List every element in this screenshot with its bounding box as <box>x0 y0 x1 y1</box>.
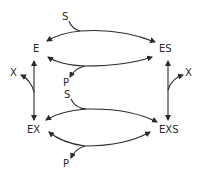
s-entry-curve-bottom <box>71 99 86 109</box>
bottom-reverse-arc <box>49 132 150 158</box>
node-EXS: EXS <box>159 124 179 135</box>
node-E: E <box>33 43 39 54</box>
s-entry-curve-top <box>69 21 80 31</box>
top-reverse-arc <box>48 57 152 77</box>
ligand-X-left: X <box>10 67 17 78</box>
ligand-P-bottom: P <box>63 158 69 169</box>
ligand-P-top: P <box>63 77 69 88</box>
node-ES: ES <box>159 43 172 54</box>
ligand-S-bottom: S <box>64 89 70 100</box>
right-vertical-equilibrium <box>168 61 183 120</box>
ligand-S-top: S <box>62 11 68 22</box>
kinetic-scheme-diagram: E ES EX EXS S P S P X X <box>0 0 201 175</box>
top-forward-arc <box>47 21 155 42</box>
bottom-forward-arc <box>46 99 157 122</box>
ligand-X-right: X <box>185 67 192 78</box>
diagram-svg: E ES EX EXS S P S P X X <box>0 0 201 175</box>
node-EX: EX <box>27 124 40 135</box>
left-vertical-equilibrium <box>21 61 34 120</box>
